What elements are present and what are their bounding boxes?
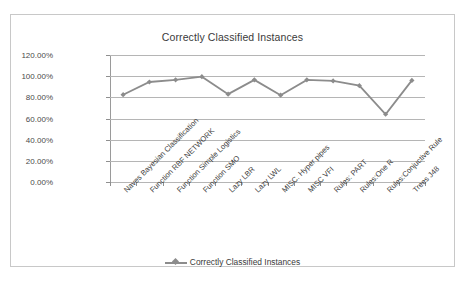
y-axis-tick-label: 80.00%: [26, 93, 53, 102]
x-axis-tick-mark: [110, 182, 111, 186]
y-axis-tick-label: 20.00%: [26, 156, 53, 165]
y-axis-tick-label: 100.00%: [21, 72, 53, 81]
y-axis-tick-label: 0.00%: [30, 178, 53, 187]
chart-frame: Correctly Classified Instances 120.00%10…: [10, 14, 455, 267]
chart-legend: Correctly Classified Instances: [11, 257, 454, 267]
chart-title: Correctly Classified Instances: [11, 31, 454, 43]
legend-marker-icon: [165, 257, 187, 267]
y-axis-tick-label: 40.00%: [26, 135, 53, 144]
y-axis-tick-label: 120.00%: [21, 51, 53, 60]
data-point-marker: [173, 77, 178, 82]
data-point-marker: [331, 78, 336, 83]
y-axis-tick-label: 60.00%: [26, 114, 53, 123]
series-line: [123, 77, 412, 115]
legend-label: Correctly Classified Instances: [190, 257, 300, 267]
